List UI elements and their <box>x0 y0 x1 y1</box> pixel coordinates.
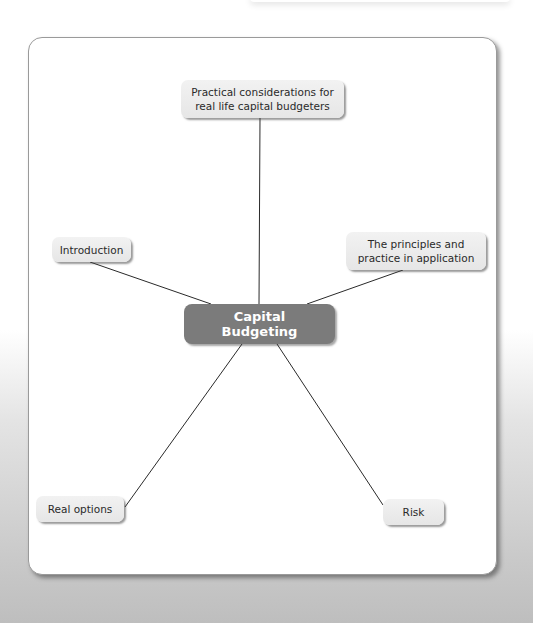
link-risk <box>277 344 383 505</box>
node-risk-label: Risk <box>403 505 425 519</box>
node-real-options-label: Real options <box>48 502 113 516</box>
node-real-options: Real options <box>36 496 124 522</box>
node-practical-line1: Practical considerations for <box>191 85 334 99</box>
link-practical <box>259 118 260 304</box>
center-line2: Budgeting <box>222 324 298 339</box>
link-principles <box>307 270 403 304</box>
node-risk: Risk <box>383 499 444 525</box>
node-principles-practice: The principles and practice in applicati… <box>346 232 486 270</box>
center-line1: Capital <box>234 309 286 324</box>
node-capital-budgeting: Capital Budgeting <box>184 304 335 344</box>
node-principles-line2: practice in application <box>358 251 475 265</box>
node-principles-line1: The principles and <box>368 237 465 251</box>
link-introduction <box>90 262 211 304</box>
node-practical-considerations: Practical considerations for real life c… <box>181 80 344 118</box>
node-introduction-label: Introduction <box>60 243 124 257</box>
node-introduction: Introduction <box>52 237 131 262</box>
node-practical-line2: real life capital budgeters <box>195 99 330 113</box>
link-real-options <box>125 344 242 507</box>
